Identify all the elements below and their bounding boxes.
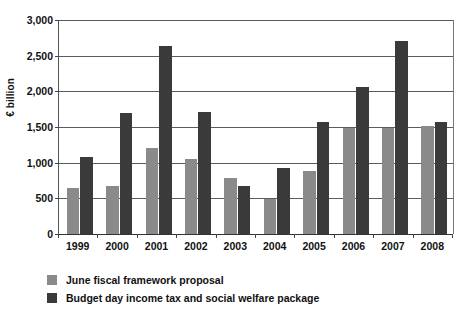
x-tick-label-2001: 2001: [145, 240, 168, 254]
bar-2004-series-1: [264, 199, 277, 234]
bar-2002-series-1: [185, 159, 198, 234]
x-tick-label-2006: 2006: [342, 240, 365, 254]
x-tick-label-1999: 1999: [66, 240, 89, 254]
x-tick-mark: [216, 234, 217, 238]
y-tick-mark: [55, 91, 59, 92]
bar-group-2004: [264, 20, 290, 234]
x-tick-label-2002: 2002: [184, 240, 207, 254]
bar-2003-series-1: [224, 178, 237, 234]
x-tick-mark: [413, 234, 414, 238]
x-tick-mark: [452, 234, 453, 238]
x-tick-mark: [255, 234, 256, 238]
bar-group-1999: [67, 20, 93, 234]
x-tick-mark: [58, 234, 59, 238]
x-tick-label-2008: 2008: [421, 240, 444, 254]
x-axis-tick-marks: [58, 234, 454, 239]
bar-chart: € billion 05001,0001,5002,0002,5003,000 …: [0, 0, 463, 318]
legend-label-series-b: Budget day income tax and social welfare…: [66, 293, 319, 304]
y-axis-title: € billion: [5, 63, 16, 133]
bar-2007-series-1: [382, 128, 395, 234]
bar-2000-series-1: [106, 186, 119, 234]
bar-2004-series-2: [277, 168, 290, 234]
bar-group-2005: [303, 20, 329, 234]
bar-2008-series-2: [435, 122, 448, 234]
bars-layer: [60, 20, 452, 234]
x-tick-label-2005: 2005: [302, 240, 325, 254]
bar-2008-series-1: [421, 126, 434, 234]
chart-legend: June fiscal framework proposal Budget da…: [47, 271, 319, 307]
bar-group-2001: [146, 20, 172, 234]
bar-group-2006: [343, 20, 369, 234]
bar-2006-series-2: [356, 87, 369, 234]
y-tick-mark: [55, 20, 59, 21]
x-tick-mark: [294, 234, 295, 238]
x-tick-label-2003: 2003: [224, 240, 247, 254]
bar-2002-series-2: [198, 112, 211, 234]
x-tick-mark: [137, 234, 138, 238]
bar-group-2002: [185, 20, 211, 234]
bar-group-2007: [382, 20, 408, 234]
plot-area: 05001,0001,5002,0002,5003,000: [58, 20, 454, 234]
y-tick-mark: [55, 198, 59, 199]
legend-item-series-a: June fiscal framework proposal: [47, 271, 319, 289]
y-tick-label: 2,000: [27, 86, 53, 97]
legend-swatch-icon-series-a: [47, 275, 57, 285]
y-tick-label: 1,000: [27, 157, 53, 168]
bar-2003-series-2: [238, 186, 251, 235]
bar-2005-series-2: [317, 122, 330, 234]
bar-2006-series-1: [343, 128, 356, 234]
legend-label-series-a: June fiscal framework proposal: [66, 275, 224, 286]
bar-1999-series-2: [80, 157, 93, 234]
x-tick-mark: [176, 234, 177, 238]
x-tick-mark: [97, 234, 98, 238]
bar-2005-series-1: [303, 171, 316, 234]
y-tick-label: 0: [47, 229, 53, 240]
bar-group-2008: [421, 20, 447, 234]
bar-group-2000: [106, 20, 132, 234]
legend-swatch-icon-series-b: [47, 293, 57, 303]
legend-item-series-b: Budget day income tax and social welfare…: [47, 289, 319, 307]
y-tick-label: 2,500: [27, 50, 53, 61]
y-tick-label: 500: [35, 193, 53, 204]
bar-2000-series-2: [120, 113, 133, 234]
y-tick-label: 1,500: [27, 122, 53, 133]
x-tick-mark: [373, 234, 374, 238]
x-tick-label-2000: 2000: [105, 240, 128, 254]
y-tick-label: 3,000: [27, 15, 53, 26]
y-tick-mark: [55, 56, 59, 57]
x-tick-label-2004: 2004: [263, 240, 286, 254]
bar-2001-series-1: [146, 148, 159, 234]
x-tick-label-2007: 2007: [381, 240, 404, 254]
bar-2001-series-2: [159, 46, 172, 234]
y-tick-mark: [55, 127, 59, 128]
bar-group-2003: [224, 20, 250, 234]
x-axis-labels: 1999200020012002200320042005200620072008: [58, 240, 454, 256]
y-tick-mark: [55, 163, 59, 164]
x-tick-mark: [334, 234, 335, 238]
bar-1999-series-1: [67, 188, 80, 234]
bar-2007-series-2: [395, 41, 408, 234]
